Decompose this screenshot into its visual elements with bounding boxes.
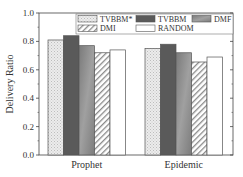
- legend-label: RANDOM: [158, 24, 194, 33]
- bar-tvbbm: [161, 44, 177, 155]
- legend-label: DMF: [214, 15, 232, 24]
- legend-swatch: [192, 16, 211, 23]
- legend-swatch: [136, 25, 155, 32]
- y-axis-label: Delivery Ratio: [4, 54, 15, 113]
- legend-label: DMI: [100, 24, 116, 33]
- legend-label: TVBBM*: [100, 15, 132, 24]
- y-tick-label: 1.0: [23, 8, 35, 18]
- legend-swatch: [136, 16, 155, 23]
- bar-dmf: [176, 53, 192, 155]
- bar-tvbbm-star: [145, 49, 161, 156]
- legend: TVBBM*TVBBMDMFDMIRANDOM: [76, 14, 233, 34]
- y-tick-label: 0.6: [23, 65, 35, 75]
- y-tick-label: 0.8: [23, 36, 35, 46]
- bar-dmi: [192, 62, 208, 155]
- bar-tvbbm: [64, 36, 80, 155]
- bar-random: [110, 50, 126, 155]
- bar-dmf: [79, 46, 95, 155]
- bar-dmi: [95, 53, 111, 155]
- bar-random: [207, 57, 223, 155]
- legend-label: TVBBM: [158, 15, 186, 24]
- x-category-label: Epidemic: [165, 159, 204, 170]
- x-category-label: Prophet: [71, 159, 102, 170]
- legend-swatch: [78, 25, 97, 32]
- legend-swatch: [78, 16, 97, 23]
- y-tick-label: 0.2: [23, 122, 34, 132]
- y-tick-label: 0.0: [23, 150, 35, 160]
- y-tick-label: 0.4: [23, 93, 35, 103]
- bar-chart: 0.00.20.40.60.81.0Delivery Ratio Prophet…: [0, 0, 243, 177]
- bar-tvbbm-star: [48, 40, 64, 155]
- bars-group: ProphetEpidemic: [48, 36, 223, 170]
